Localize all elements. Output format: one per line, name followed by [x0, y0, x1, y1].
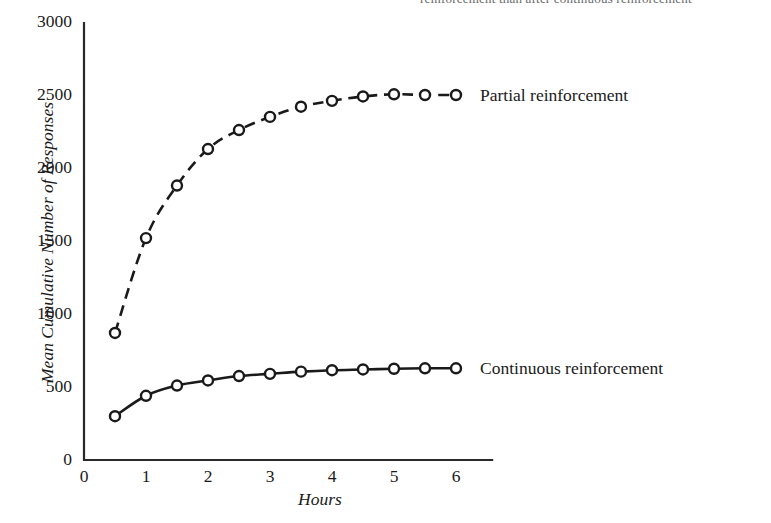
- data-point-marker: [265, 369, 275, 379]
- data-point-marker: [451, 363, 461, 373]
- x-tick-label-3: 3: [250, 468, 290, 486]
- data-point-marker: [265, 112, 275, 122]
- y-tick-label-2500: 2500: [8, 86, 72, 104]
- data-point-marker: [389, 89, 399, 99]
- x-tick-label-6: 6: [436, 468, 476, 486]
- series-line-solid: [115, 368, 456, 416]
- data-point-marker: [451, 90, 461, 100]
- data-point-marker: [234, 371, 244, 381]
- data-point-marker: [296, 102, 306, 112]
- series-continuous-reinforcement: [110, 363, 461, 421]
- data-point-marker: [327, 365, 337, 375]
- data-point-marker: [389, 364, 399, 374]
- data-point-marker: [172, 381, 182, 391]
- y-tick-label-1500: 1500: [8, 232, 72, 250]
- y-tick-label-500: 500: [8, 378, 72, 396]
- data-point-marker: [141, 233, 151, 243]
- x-tick-label-4: 4: [312, 468, 352, 486]
- x-tick-label-2: 2: [188, 468, 228, 486]
- data-point-marker: [110, 328, 120, 338]
- data-point-marker: [420, 90, 430, 100]
- data-point-marker: [358, 364, 368, 374]
- x-tick-label-5: 5: [374, 468, 414, 486]
- data-point-marker: [327, 96, 337, 106]
- y-tick-label-3000: 3000: [8, 13, 72, 31]
- x-axis-title: Hours: [0, 489, 640, 510]
- series-line-dashed: [115, 94, 456, 333]
- series-label-partial-reinforcement: Partial reinforcement: [480, 87, 628, 105]
- data-point-marker: [172, 181, 182, 191]
- line-chart-plot-area: [0, 0, 771, 523]
- series-partial-reinforcement: [110, 89, 461, 338]
- data-point-marker: [110, 411, 120, 421]
- data-point-marker: [203, 375, 213, 385]
- data-point-marker: [296, 367, 306, 377]
- x-tick-label-0: 0: [64, 468, 104, 486]
- figure-container: reinforcement than after continuous rein…: [0, 0, 771, 523]
- data-point-marker: [234, 125, 244, 135]
- data-point-marker: [141, 391, 151, 401]
- series-label-continuous-reinforcement: Continuous reinforcement: [480, 360, 663, 378]
- data-point-marker: [420, 363, 430, 373]
- y-tick-label-0: 0: [8, 451, 72, 469]
- data-point-marker: [203, 144, 213, 154]
- data-point-marker: [358, 91, 368, 101]
- x-tick-label-1: 1: [126, 468, 166, 486]
- y-tick-label-2000: 2000: [8, 159, 72, 177]
- y-tick-label-1000: 1000: [8, 305, 72, 323]
